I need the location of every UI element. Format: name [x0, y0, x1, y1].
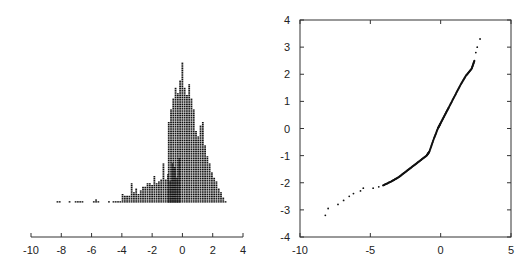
x-tick-label: 5 — [508, 244, 514, 256]
y-tick-label: 2 — [284, 68, 290, 80]
x-tick-label: 2 — [210, 244, 216, 256]
qq-points — [324, 38, 481, 216]
x-tick-label: -10 — [292, 244, 308, 256]
x-tick-label: 4 — [240, 244, 246, 256]
x-axis-ticks: -10-505 — [292, 20, 514, 256]
x-tick-label: -8 — [56, 244, 66, 256]
y-tick-label: -3 — [280, 204, 290, 216]
x-tick-label: -10 — [23, 244, 39, 256]
y-axis-ticks: -4-3-2-101234 — [280, 14, 511, 243]
histogram-dots — [57, 63, 227, 203]
y-tick-label: -4 — [280, 231, 290, 243]
plot-frame — [300, 20, 511, 237]
x-tick-label: -4 — [117, 244, 127, 256]
x-tick-label: 0 — [438, 244, 444, 256]
figure: -10-8-6-4-2024 -10-505 -4-3-2-101234 — [0, 0, 529, 269]
x-tick-label: -2 — [147, 244, 157, 256]
histogram-plot: -10-8-6-4-2024 — [23, 63, 246, 256]
y-tick-label: 1 — [284, 95, 290, 107]
y-tick-label: -1 — [280, 150, 290, 162]
x-tick-label: -5 — [365, 244, 375, 256]
y-tick-label: 0 — [284, 123, 290, 135]
y-tick-label: 3 — [284, 41, 290, 53]
qq-plot: -10-505 -4-3-2-101234 — [280, 14, 514, 256]
x-tick-label: 0 — [179, 244, 185, 256]
x-axis-ticks: -10-8-6-4-2024 — [23, 233, 246, 256]
y-tick-label: 4 — [284, 14, 290, 26]
y-tick-label: -2 — [280, 177, 290, 189]
x-tick-label: -6 — [87, 244, 97, 256]
